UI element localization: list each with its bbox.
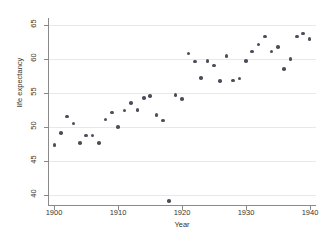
data-point xyxy=(244,59,248,63)
data-point xyxy=(250,50,254,54)
gridline-y xyxy=(49,161,316,162)
data-point xyxy=(136,108,140,112)
data-point xyxy=(97,141,101,145)
y-tick-mark xyxy=(44,93,49,94)
data-point xyxy=(129,101,133,105)
gridline-y xyxy=(49,93,316,94)
y-tick-mark xyxy=(44,25,49,26)
data-point xyxy=(78,141,82,145)
y-tick-label: 65 xyxy=(29,15,38,33)
y-tick-mark xyxy=(44,195,49,196)
y-tick-mark xyxy=(44,127,49,128)
data-point xyxy=(289,57,293,61)
data-point xyxy=(174,93,178,97)
data-point xyxy=(167,199,171,203)
x-tick-label: 1910 xyxy=(102,208,134,217)
scatter-chart-figure: 404550556065 19001910192019301940 life e… xyxy=(0,0,327,252)
data-point xyxy=(282,67,286,71)
y-axis-line xyxy=(48,18,49,205)
x-tick-label: 1930 xyxy=(230,208,262,217)
x-tick-label: 1920 xyxy=(166,208,198,217)
gridline-y xyxy=(49,127,316,128)
data-point xyxy=(110,111,114,115)
y-tick-label: 40 xyxy=(29,185,38,203)
y-tick-label: 50 xyxy=(29,117,38,135)
y-tick-label: 45 xyxy=(29,151,38,169)
x-tick-label: 1900 xyxy=(38,208,70,217)
gridline-y xyxy=(49,25,316,26)
data-point xyxy=(276,45,280,49)
y-tick-mark xyxy=(44,59,49,60)
gridline-y xyxy=(49,195,316,196)
y-tick-label: 60 xyxy=(29,49,38,67)
data-point xyxy=(180,97,184,101)
data-point xyxy=(53,143,57,147)
x-tick-label: 1940 xyxy=(294,208,326,217)
data-point xyxy=(212,64,216,68)
data-point xyxy=(206,59,210,63)
data-point xyxy=(116,125,120,129)
x-axis-title: Year xyxy=(48,220,316,229)
data-point xyxy=(142,96,146,100)
data-point xyxy=(193,60,197,64)
data-point xyxy=(148,94,152,98)
gridline-y xyxy=(49,59,316,60)
data-point xyxy=(295,35,299,39)
data-point xyxy=(199,76,203,80)
data-point xyxy=(263,35,267,39)
y-tick-mark xyxy=(44,161,49,162)
y-tick-label: 55 xyxy=(29,83,38,101)
y-axis-title: life expectancy xyxy=(15,40,24,126)
data-point xyxy=(59,131,63,135)
